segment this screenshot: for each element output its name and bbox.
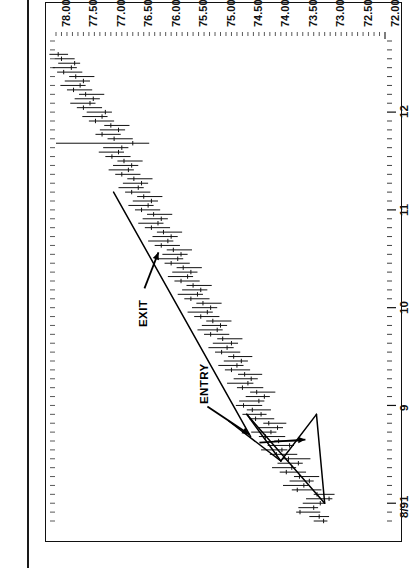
price-tick-label: 76.50: [142, 0, 154, 27]
price-axis-ticks: [56, 32, 385, 39]
time-tick-label: 8/91: [398, 496, 410, 518]
price-tick-label: 78.00: [60, 0, 72, 27]
price-tick-label: 73.50: [307, 0, 319, 27]
time-tick-label: 9: [398, 405, 410, 411]
price-tick-label: 75.50: [197, 0, 209, 27]
time-tick-label: 10: [398, 301, 410, 314]
figure-root: December 1991—Japanese Yen 78.0077.5077.…: [0, 0, 418, 568]
price-tick-label: 74.00: [279, 0, 291, 27]
price-tick-label: 72.50: [362, 0, 374, 27]
plot-frame: [45, 2, 402, 542]
price-tick-label: 75.00: [225, 0, 237, 27]
price-tick-label: 73.00: [334, 0, 346, 27]
time-tick-label: 12: [398, 105, 410, 118]
price-tick-label: 72.00: [389, 0, 401, 27]
price-tick-label: 74.50: [252, 0, 264, 27]
ohlc-chart: [46, 3, 403, 543]
time-axis-ticks: [50, 41, 396, 521]
price-tick-label: 77.00: [115, 0, 127, 27]
exit-annotation-label: EXIT: [137, 300, 149, 327]
entry-annotation-label: ENTRY: [198, 363, 210, 404]
price-tick-label: 76.00: [170, 0, 182, 27]
time-tick-label: 11: [398, 204, 410, 216]
price-tick-label: 77.50: [87, 0, 99, 27]
ohlc-bars: [49, 52, 334, 523]
page-gutter-rule: [27, 0, 29, 568]
